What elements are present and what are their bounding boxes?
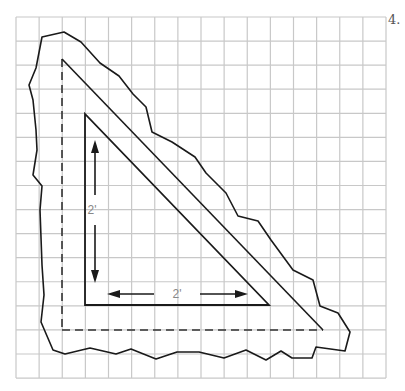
arrowhead-down-icon bbox=[91, 270, 99, 283]
arrowhead-right-icon bbox=[235, 290, 248, 298]
problem-number: 4. bbox=[388, 12, 400, 27]
arrowhead-up-icon bbox=[91, 140, 99, 153]
irregular-outline bbox=[29, 32, 350, 360]
grid bbox=[16, 17, 386, 378]
triangle-diagram: 2' 2' bbox=[0, 0, 405, 391]
vertical-dimension-label: 2' bbox=[88, 203, 97, 217]
horizontal-dimension-label: 2' bbox=[173, 287, 182, 301]
middle-triangle-diagonal bbox=[62, 59, 323, 330]
